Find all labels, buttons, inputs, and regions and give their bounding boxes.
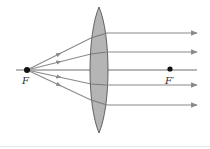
incoming-ray-2 [27, 54, 91, 70]
incoming-ray-5 [27, 70, 91, 100]
focal-point-f [24, 67, 30, 73]
incoming-ray-1 [27, 38, 91, 70]
outgoing-rays [107, 33, 197, 105]
label-f: F [21, 75, 30, 86]
focal-point-f-prime [167, 66, 172, 71]
bottom-divider [0, 146, 210, 147]
label-f-prime: F′ [164, 75, 175, 86]
lens-diagram: F F′ [0, 0, 210, 149]
converging-lens [90, 7, 108, 133]
incoming-ray-4 [27, 70, 91, 84]
incoming-rays [27, 38, 91, 100]
